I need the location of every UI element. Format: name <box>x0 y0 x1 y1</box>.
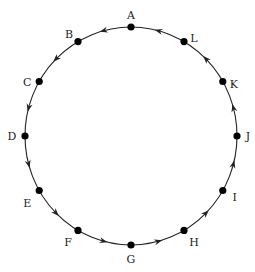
node-label-i: I <box>233 191 237 204</box>
node-label-l: L <box>190 32 198 45</box>
node-label-f: F <box>64 236 72 249</box>
node-label-c: C <box>23 76 31 89</box>
node-a <box>127 23 134 30</box>
node-label-a: A <box>126 9 136 22</box>
node-b <box>74 38 81 45</box>
node-label-g: G <box>127 253 136 266</box>
node-l <box>180 38 187 45</box>
node-label-b: B <box>65 28 73 41</box>
node-label-e: E <box>23 197 31 210</box>
cycle-diagram: ABCDEFGHIJKL <box>0 0 255 272</box>
diagram-canvas: ABCDEFGHIJKL <box>0 0 255 272</box>
node-c <box>36 78 43 85</box>
node-j <box>233 132 240 139</box>
node-h <box>180 227 187 234</box>
node-label-h: H <box>189 236 199 249</box>
node-label-k: K <box>230 78 239 91</box>
node-label-j: J <box>245 130 250 143</box>
arrows-layer <box>25 27 238 245</box>
nodes-layer <box>21 23 240 248</box>
node-d <box>21 132 28 139</box>
node-f <box>74 227 81 234</box>
node-e <box>36 187 43 194</box>
labels-layer: ABCDEFGHIJKL <box>8 9 251 266</box>
node-g <box>127 241 134 248</box>
node-label-d: D <box>8 130 17 143</box>
node-k <box>219 78 226 85</box>
node-i <box>219 187 226 194</box>
